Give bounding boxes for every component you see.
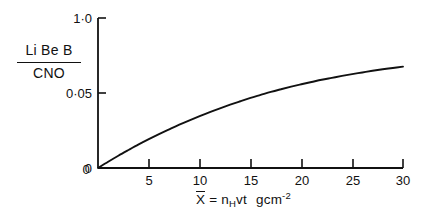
x-axis-ticks xyxy=(149,159,403,168)
data-curve xyxy=(98,67,403,168)
plot-area xyxy=(0,0,422,218)
chart-figure: Li Be B CNO X=nHvtgcm-2 1·0 0·05 0 0 5 1… xyxy=(0,0,422,218)
y-axis-ticks xyxy=(98,18,106,93)
